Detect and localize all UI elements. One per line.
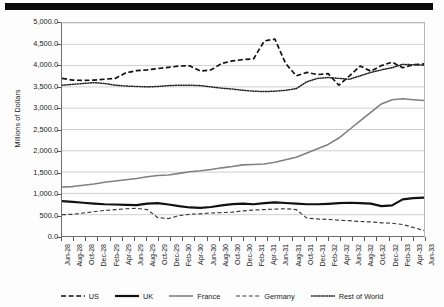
x-tick-mark <box>425 237 426 241</box>
y-tick-label: 0.0 <box>2 232 58 241</box>
chart-figure: Millions of Dollars 0.0500.01,000.01,500… <box>0 14 444 284</box>
plot-area <box>61 22 425 237</box>
x-tick-mark <box>97 237 98 241</box>
y-tick-label: 2,500.0 <box>2 125 58 134</box>
x-tick-label: Apr-30 <box>197 244 205 265</box>
y-tick-label: 4,500.0 <box>2 39 58 48</box>
x-tick-mark <box>267 237 268 241</box>
series-canvas <box>62 23 424 236</box>
x-tick-mark <box>134 237 135 241</box>
x-tick-mark <box>207 237 208 241</box>
x-tick-mark <box>279 237 280 241</box>
x-tick-label: Oct-31 <box>307 244 315 265</box>
x-tick-label: Oct-30 <box>234 244 242 265</box>
x-tick-label: Apr-32 <box>343 244 351 265</box>
dotted-line-icon <box>311 292 335 300</box>
x-tick-label: Oct-29 <box>161 244 169 265</box>
x-tick-label: Aug-28 <box>76 244 84 267</box>
legend-item[interactable]: Germany <box>236 292 294 301</box>
legend-label: Rest of World <box>339 292 384 301</box>
series-line-france <box>62 99 424 187</box>
x-tick-label: Apr-33 <box>416 244 424 265</box>
x-tick-mark <box>146 237 147 241</box>
y-tick-label: 500.0 <box>2 211 58 220</box>
x-tick-label: Apr-31 <box>270 244 278 265</box>
legend-item[interactable]: France <box>169 292 220 301</box>
x-tick-label: Feb-33 <box>404 244 412 266</box>
x-tick-label: Oct-28 <box>88 244 96 265</box>
x-tick-mark <box>340 237 341 241</box>
x-tick-label: Aug-31 <box>295 244 303 267</box>
x-tick-label: Jun-28 <box>64 244 72 265</box>
x-tick-mark <box>61 237 62 241</box>
x-tick-mark <box>364 237 365 241</box>
x-tick-mark <box>110 237 111 241</box>
x-tick-mark <box>243 237 244 241</box>
y-tick-label: 3,500.0 <box>2 82 58 91</box>
solid-thick-line-icon <box>115 292 139 300</box>
series-line-germany <box>62 208 424 230</box>
legend-label: Germany <box>264 292 294 301</box>
x-tick-mark <box>73 237 74 241</box>
y-tick-label: 1,000.0 <box>2 189 58 198</box>
y-tick-label: 5,000.0 <box>2 17 58 26</box>
header-rule <box>5 3 433 10</box>
x-tick-label: Dec-31 <box>319 244 327 267</box>
legend-item[interactable]: Rest of World <box>311 292 384 301</box>
x-tick-label: Feb-31 <box>258 244 266 266</box>
x-tick-label: Jun-31 <box>282 244 290 265</box>
x-tick-mark <box>194 237 195 241</box>
x-tick-mark <box>413 237 414 241</box>
series-line-uk <box>62 198 424 208</box>
x-tick-label: Dec-28 <box>100 244 108 267</box>
x-tick-label: Jun-32 <box>355 244 363 265</box>
x-tick-mark <box>158 237 159 241</box>
x-tick-label: Aug-29 <box>149 244 157 267</box>
chart-page: Millions of Dollars 0.0500.01,000.01,500… <box>0 0 444 307</box>
dashed-line-icon <box>61 292 85 300</box>
legend-label: UK <box>143 292 153 301</box>
x-tick-label: Jun-30 <box>210 244 218 265</box>
x-tick-mark <box>255 237 256 241</box>
x-tick-mark <box>219 237 220 241</box>
x-tick-label: Dec-29 <box>173 244 181 267</box>
x-tick-mark <box>352 237 353 241</box>
x-tick-mark <box>376 237 377 241</box>
x-tick-mark <box>316 237 317 241</box>
y-tick-label: 1,500.0 <box>2 168 58 177</box>
x-tick-label: Feb-30 <box>185 244 193 266</box>
x-tick-mark <box>85 237 86 241</box>
x-tick-mark <box>304 237 305 241</box>
x-tick-label: Apr-29 <box>125 244 133 265</box>
x-tick-mark <box>292 237 293 241</box>
x-tick-label: Feb-29 <box>113 244 121 266</box>
y-tick-label: 3,000.0 <box>2 103 58 112</box>
series-line-us <box>62 39 424 85</box>
dashed-thin-line-icon <box>236 292 260 300</box>
x-tick-label: Oct-32 <box>379 244 387 265</box>
x-tick-label: Feb-32 <box>331 244 339 266</box>
legend-item[interactable]: US <box>61 292 99 301</box>
x-tick-label: Aug-32 <box>367 244 375 267</box>
x-tick-label: Dec-32 <box>392 244 400 267</box>
solid-gray-line-icon <box>169 292 193 300</box>
x-tick-mark <box>389 237 390 241</box>
chart-legend: USUKFranceGermanyRest of World <box>0 288 444 304</box>
x-tick-mark <box>182 237 183 241</box>
legend-label: France <box>197 292 220 301</box>
x-tick-label: Aug-30 <box>222 244 230 267</box>
y-tick-label: 2,000.0 <box>2 146 58 155</box>
legend-label: US <box>89 292 99 301</box>
x-tick-label: Jun-33 <box>428 244 436 265</box>
x-tick-mark <box>170 237 171 241</box>
legend-item[interactable]: UK <box>115 292 153 301</box>
x-tick-mark <box>401 237 402 241</box>
x-tick-mark <box>122 237 123 241</box>
x-tick-label: Dec-30 <box>246 244 254 267</box>
x-tick-label: Jun-29 <box>137 244 145 265</box>
x-tick-mark <box>328 237 329 241</box>
x-tick-mark <box>231 237 232 241</box>
y-tick-label: 4,000.0 <box>2 60 58 69</box>
